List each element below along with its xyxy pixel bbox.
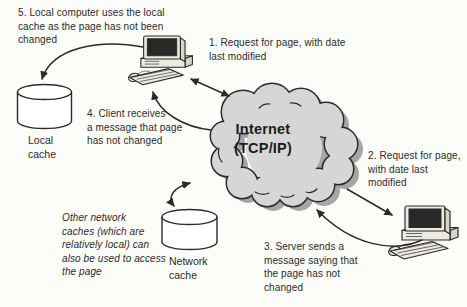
arrow-step1-request bbox=[191, 79, 229, 96]
annotation-step2: 2. Request for page, with date last modi… bbox=[368, 149, 466, 190]
annotation-step1: 1. Request for page, with date last modi… bbox=[209, 36, 371, 63]
local-cache-cylinder bbox=[18, 85, 72, 129]
network-cache-label: Network cache bbox=[169, 254, 208, 282]
arrow-step5-local-cache bbox=[42, 44, 143, 79]
annotation-step4: 4. Client receives a message that page h… bbox=[87, 107, 209, 148]
annotation-step5: 5. Local computer uses the local cache a… bbox=[18, 6, 200, 47]
arrow-step2-request bbox=[347, 189, 392, 215]
local-cache-label: Local cache bbox=[28, 133, 56, 161]
annotation-step3: 3. Server sends a message saying that th… bbox=[264, 240, 386, 294]
arrow-network-cache bbox=[171, 183, 190, 206]
annotation-network-note: Other network caches (which are relative… bbox=[62, 211, 186, 279]
server-computer-icon bbox=[387, 206, 458, 259]
caching-diagram-page: 5. Local computer uses the local cache a… bbox=[0, 0, 467, 307]
internet-cloud-label: Internet (TCP/IP) bbox=[203, 120, 323, 158]
